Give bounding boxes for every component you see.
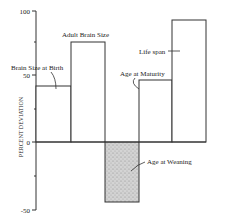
y-tick-neg50: -50 bbox=[21, 207, 31, 215]
y-tick-100: 100 bbox=[20, 8, 31, 16]
bar-chart: 100 50 0 -50 PERCENT DEVIATION Brain Siz… bbox=[0, 0, 226, 224]
label-life-span: Life span bbox=[139, 48, 166, 56]
bar-life-span bbox=[172, 20, 206, 142]
bar-adult-brain-size bbox=[71, 42, 105, 142]
label-brain-size-at-birth: Brain Size at Birth bbox=[11, 64, 64, 72]
y-tick-0: 0 bbox=[27, 139, 31, 147]
leader-age-at-maturity bbox=[133, 78, 139, 89]
y-axis: 100 50 0 -50 PERCENT DEVIATION bbox=[18, 8, 36, 215]
bars bbox=[36, 20, 206, 202]
label-age-at-weaning: Age at Weaning bbox=[147, 158, 192, 166]
bar-age-at-weaning bbox=[105, 142, 139, 202]
label-age-at-maturity: Age at Maturity bbox=[120, 70, 165, 78]
bar-brain-size-at-birth bbox=[36, 86, 71, 142]
bar-age-at-maturity bbox=[139, 80, 172, 142]
label-adult-brain-size: Adult Brain Size bbox=[62, 31, 109, 39]
y-tick-50: 50 bbox=[23, 72, 31, 80]
y-axis-label: PERCENT DEVIATION bbox=[18, 96, 24, 157]
